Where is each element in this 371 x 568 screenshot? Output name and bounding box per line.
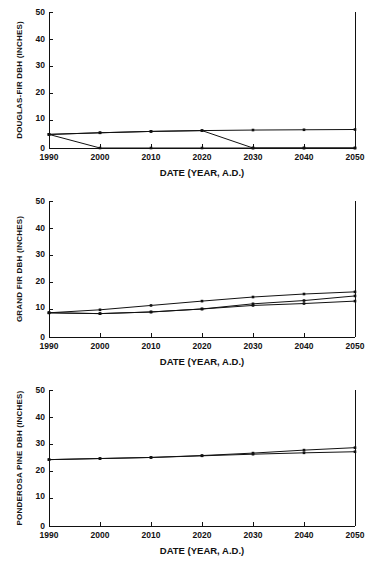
x-tick-label: 2030 <box>244 341 263 351</box>
axis-frame-2 <box>49 390 355 526</box>
figure-page: DOUGLAS-FIR DBH (INCHES) 50 40 30 20 10 … <box>0 0 371 568</box>
y-tick-label: 40 <box>36 34 46 44</box>
data-point-marker <box>99 147 102 150</box>
chart-svg-douglas-fir: DOUGLAS-FIR DBH (INCHES) 50 40 30 20 10 … <box>0 0 371 189</box>
y-tick-labels-1: 50 40 30 20 10 0 <box>36 196 46 342</box>
x-tick-label: 2040 <box>295 341 314 351</box>
data-point-marker <box>201 147 204 150</box>
x-tick-label: 1990 <box>40 152 59 162</box>
data-series-ponderosa-pine <box>48 446 357 461</box>
data-point-marker <box>201 308 204 311</box>
chart-panel-ponderosa-pine: PONDEROSA PINE DBH (INCHES) 50 40 30 20 … <box>0 378 371 567</box>
x-tick-label: 2040 <box>295 152 314 162</box>
y-tick-label: 30 <box>36 438 46 448</box>
x-tick-labels-2: 1990 2000 2010 2020 2030 2040 2050 <box>40 530 365 540</box>
y-axis-title-group-2: PONDEROSA PINE DBH (INCHES) <box>15 390 24 525</box>
y-ticks-0 <box>49 12 53 148</box>
x-tick-labels-0: 1990 2000 2010 2020 2030 2040 2050 <box>40 152 365 162</box>
data-point-marker <box>252 129 255 132</box>
y-axis-title-group-0: DOUGLAS-FIR DBH (INCHES) <box>15 21 24 139</box>
data-point-marker <box>99 131 102 134</box>
series-line-stand-1 <box>49 448 355 460</box>
data-point-marker <box>252 147 255 150</box>
x-tick-label: 2030 <box>244 152 263 162</box>
data-point-marker <box>303 302 306 305</box>
data-point-marker <box>99 312 102 315</box>
chart-svg-grand-fir: GRAND FIR DBH (INCHES) 50 40 30 20 10 0 <box>0 189 371 378</box>
data-point-marker <box>150 304 153 307</box>
y-tick-label: 40 <box>36 412 46 422</box>
x-tick-label: 2020 <box>193 530 212 540</box>
data-point-marker <box>48 458 51 461</box>
x-tick-label: 2020 <box>193 152 212 162</box>
data-point-marker <box>201 455 204 458</box>
y-tick-label: 10 <box>36 302 46 312</box>
x-tick-label: 2050 <box>346 152 365 162</box>
x-tick-label: 1990 <box>40 530 59 540</box>
y-tick-label: 40 <box>36 223 46 233</box>
x-tick-label: 1990 <box>40 341 59 351</box>
x-tick-labels-1: 1990 2000 2010 2020 2030 2040 2050 <box>40 341 365 351</box>
y-tick-label: 50 <box>36 385 46 395</box>
y-tick-label: 50 <box>36 196 46 206</box>
x-tick-label: 2010 <box>142 152 161 162</box>
data-point-marker <box>354 128 357 131</box>
y-tick-label: 20 <box>36 465 46 475</box>
data-point-marker <box>99 309 102 312</box>
y-tick-label: 10 <box>36 113 46 123</box>
data-point-marker <box>150 147 153 150</box>
y-ticks-2 <box>49 390 53 526</box>
data-point-marker <box>354 450 357 453</box>
data-point-marker <box>201 129 204 132</box>
x-tick-label: 2050 <box>346 341 365 351</box>
data-point-marker <box>354 300 357 303</box>
data-point-marker <box>354 295 357 298</box>
y-tick-labels-2: 50 40 30 20 10 0 <box>36 385 46 531</box>
x-tick-label: 2000 <box>91 341 110 351</box>
data-point-marker <box>150 130 153 133</box>
y-tick-label: 20 <box>36 276 46 286</box>
data-point-marker <box>150 311 153 314</box>
data-point-marker <box>303 449 306 452</box>
chart-panel-douglas-fir: DOUGLAS-FIR DBH (INCHES) 50 40 30 20 10 … <box>0 0 371 189</box>
series-line-stand-2 <box>49 296 355 314</box>
x-tick-label: 2000 <box>91 530 110 540</box>
data-point-marker <box>354 291 357 294</box>
data-point-marker <box>303 128 306 131</box>
chart-svg-ponderosa-pine: PONDEROSA PINE DBH (INCHES) 50 40 30 20 … <box>0 378 371 568</box>
axis-frame-1 <box>49 201 355 337</box>
y-axis-title-group-1: GRAND FIR DBH (INCHES) <box>15 216 24 322</box>
data-point-marker <box>252 453 255 456</box>
data-point-marker <box>48 311 51 314</box>
chart-panel-grand-fir: GRAND FIR DBH (INCHES) 50 40 30 20 10 0 <box>0 189 371 378</box>
x-axis-title: DATE (YEAR, A.D.) <box>160 356 244 367</box>
y-tick-labels-0: 50 40 30 20 10 0 <box>36 7 46 153</box>
data-point-marker <box>354 446 357 449</box>
data-point-marker <box>201 300 204 303</box>
data-point-marker <box>252 296 255 299</box>
x-tick-label: 2010 <box>142 530 161 540</box>
y-tick-label: 10 <box>36 491 46 501</box>
y-axis-title: DOUGLAS-FIR DBH (INCHES) <box>15 21 24 139</box>
data-point-marker <box>252 304 255 307</box>
data-point-marker <box>48 133 51 136</box>
y-tick-label: 20 <box>36 87 46 97</box>
x-ticks-2 <box>49 522 355 526</box>
y-axis-title: GRAND FIR DBH (INCHES) <box>15 216 24 322</box>
x-axis-title: DATE (YEAR, A.D.) <box>160 167 244 178</box>
data-series-grand-fir <box>48 291 357 315</box>
y-axis-title: PONDEROSA PINE DBH (INCHES) <box>15 390 24 525</box>
x-tick-label: 2010 <box>142 341 161 351</box>
data-point-marker <box>354 147 357 150</box>
y-tick-label: 30 <box>36 249 46 259</box>
data-point-marker <box>303 299 306 302</box>
axis-frame-0 <box>49 12 355 148</box>
x-tick-label: 2040 <box>295 530 314 540</box>
data-point-marker <box>99 457 102 460</box>
data-point-marker <box>150 456 153 459</box>
data-point-marker <box>303 147 306 150</box>
data-point-marker <box>303 452 306 455</box>
x-tick-label: 2050 <box>346 530 365 540</box>
x-tick-label: 2020 <box>193 341 212 351</box>
data-point-marker <box>303 293 306 296</box>
